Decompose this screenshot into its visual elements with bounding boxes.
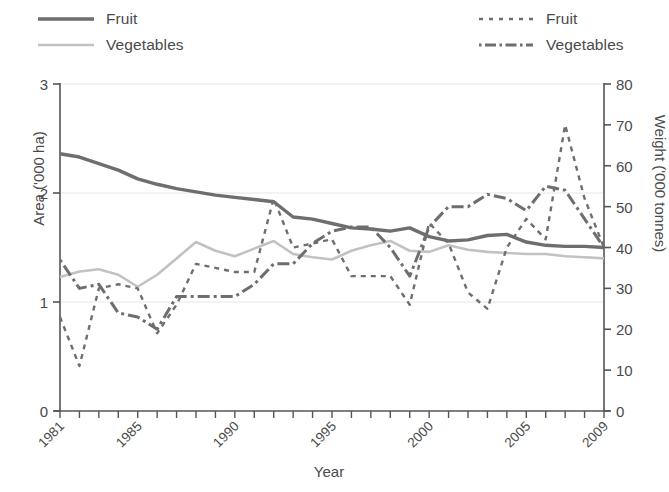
y-axis-right-tick-label: 10 (616, 362, 633, 379)
series-line-fruit-right (60, 125, 604, 366)
y-axis-left-tick-label: 3 (40, 76, 48, 93)
series-line-vegetables-right (60, 186, 604, 329)
axis-lines (54, 83, 610, 411)
y-axis-left-tick-label: 0 (40, 403, 48, 420)
y-axis-left-tick-label: 1 (40, 294, 48, 311)
y-axis-right-tick-label: 70 (616, 117, 633, 134)
y-axis-right-tick-label: 60 (616, 158, 633, 175)
x-axis-tick-label: 1981 (35, 419, 67, 451)
x-axis-tick-label: 1995 (307, 419, 339, 451)
series-line-vegetables-left (60, 241, 604, 287)
data-series (60, 125, 604, 366)
y-axis-right-tick-label: 30 (616, 280, 633, 297)
y-axis-left-tick-label: 2 (40, 185, 48, 202)
gridlines (60, 84, 604, 302)
x-axis-tick-label: 1985 (113, 419, 145, 451)
y-axis-right-ticks: 01020304050607080 (604, 76, 633, 420)
x-axis-ticks: 1981198519901995200020052009 (35, 411, 611, 450)
y-axis-right-tick-label: 80 (616, 76, 633, 93)
series-line-fruit-left (60, 154, 604, 248)
x-axis-tick-label: 2000 (404, 419, 436, 451)
y-axis-left-ticks: 0123 (40, 76, 60, 420)
y-axis-right-tick-label: 50 (616, 199, 633, 216)
y-axis-right-tick-label: 40 (616, 240, 633, 257)
y-axis-right-tick-label: 20 (616, 321, 633, 338)
x-axis-tick-label: 1990 (210, 419, 242, 451)
x-axis-tick-label: 2009 (579, 419, 611, 451)
y-axis-right-tick-label: 0 (616, 403, 624, 420)
x-axis-tick-label: 2005 (502, 419, 534, 451)
